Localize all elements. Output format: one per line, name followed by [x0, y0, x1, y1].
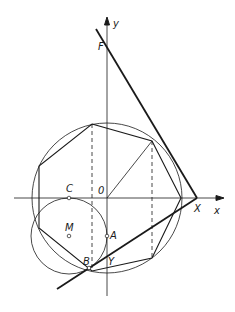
point-M-marker — [67, 234, 71, 238]
point-A-marker — [105, 234, 109, 238]
x-axis-label: x — [213, 205, 220, 216]
axes — [14, 17, 224, 296]
label-X: X — [193, 203, 202, 214]
geometry-diagram: y x F 0 C M A B Y X — [0, 0, 235, 312]
line-XY — [57, 198, 197, 289]
y-axis-label: y — [112, 18, 120, 29]
label-origin: 0 — [98, 185, 104, 196]
x-axis-arrow-icon — [216, 196, 224, 201]
label-A: A — [109, 230, 117, 241]
label-C: C — [66, 183, 73, 194]
label-Y: Y — [108, 256, 115, 267]
label-F: F — [98, 41, 104, 52]
heptagon — [39, 124, 181, 271]
line-FX — [96, 29, 197, 198]
label-M: M — [65, 222, 74, 233]
label-B: B — [83, 256, 90, 267]
radius-line — [107, 141, 152, 198]
point-C-marker — [67, 196, 71, 200]
y-axis-arrow-icon — [105, 17, 110, 25]
